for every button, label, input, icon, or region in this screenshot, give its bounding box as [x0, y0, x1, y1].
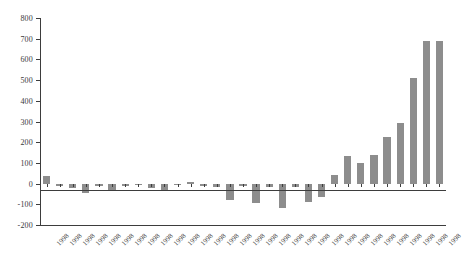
x-tick-label: 1998 [330, 232, 346, 248]
x-tick-mark [387, 184, 388, 187]
x-tick-mark [164, 184, 165, 187]
x-tick-mark [73, 184, 74, 187]
x-tick-mark [426, 184, 427, 187]
x-tick-mark [413, 184, 414, 187]
x-tick-mark [217, 184, 218, 187]
x-tick-mark [112, 184, 113, 187]
bar [279, 184, 286, 209]
bar [43, 176, 50, 183]
x-tick-mark [322, 184, 323, 187]
bar [357, 163, 364, 184]
x-tick-label: 1998 [81, 232, 97, 248]
y-tick-label: 500 [20, 76, 33, 85]
x-tick-label: 1998 [186, 232, 202, 248]
x-tick-mark [400, 184, 401, 187]
x-tick-mark [86, 184, 87, 187]
x-tick-label: 1998 [317, 232, 333, 248]
x-tick-label: 1998 [107, 232, 123, 248]
x-tick-label: 1998 [225, 232, 241, 248]
y-tick-label: 0 [29, 179, 33, 188]
x-tick-mark [178, 184, 179, 187]
x-tick-mark [151, 184, 152, 187]
bar [410, 78, 417, 184]
x-tick-mark [308, 184, 309, 187]
x-tick-mark [230, 184, 231, 187]
x-tick-mark [138, 184, 139, 187]
bar [331, 175, 338, 183]
x-tick-mark [361, 184, 362, 187]
bar [423, 41, 430, 184]
x-tick-label: 1998 [94, 232, 110, 248]
bar [397, 123, 404, 184]
x-tick-mark [256, 184, 257, 187]
y-tick-label: -100 [18, 200, 33, 209]
x-tick-mark [204, 184, 205, 187]
y-tick-label: 400 [20, 96, 33, 105]
bar [436, 41, 443, 184]
x-tick-label: 1998 [55, 232, 71, 248]
zero-baseline [40, 190, 446, 191]
y-axis-labels: 8007006005004003002001000-100-200 [0, 0, 40, 265]
y-tick-label: 100 [20, 158, 33, 167]
x-axis-bottom-line [40, 225, 446, 226]
x-tick-mark [99, 184, 100, 187]
bars-container [40, 18, 446, 225]
y-tick-label: 200 [20, 138, 33, 147]
bar [383, 137, 390, 184]
x-tick-mark [191, 184, 192, 187]
x-tick-label: 1998 [369, 232, 385, 248]
x-tick-label: 1998 [199, 232, 215, 248]
x-tick-label: 1998 [68, 232, 84, 248]
x-tick-mark [374, 184, 375, 187]
x-tick-label: 1998 [173, 232, 189, 248]
x-tick-mark [439, 184, 440, 187]
x-tick-label: 1998 [212, 232, 228, 248]
x-tick-mark [282, 184, 283, 187]
bar [370, 155, 377, 184]
y-tick-label: 600 [20, 55, 33, 64]
x-tick-mark [269, 184, 270, 187]
x-tick-mark [348, 184, 349, 187]
x-tick-mark [295, 184, 296, 187]
x-tick-label: 1998 [238, 232, 254, 248]
x-tick-mark [243, 184, 244, 187]
y-tick-label: 300 [20, 117, 33, 126]
y-tick-label: 700 [20, 34, 33, 43]
x-tick-label: 1998 [356, 232, 372, 248]
x-tick-mark [335, 184, 336, 187]
y-tick-label: -200 [18, 221, 33, 230]
bar [344, 156, 351, 184]
x-tick-mark [60, 184, 61, 187]
x-tick-mark [125, 184, 126, 187]
y-tick-label: 800 [20, 14, 33, 23]
x-tick-mark [47, 184, 48, 187]
x-tick-label: 1998 [448, 232, 463, 248]
x-tick-label: 1998 [343, 232, 359, 248]
x-axis-labels: 1998199819981998199819981998199819981998… [40, 228, 446, 265]
